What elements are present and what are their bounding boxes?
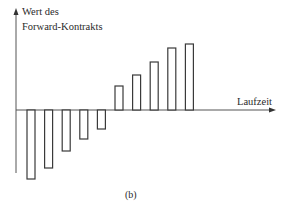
figure-caption: (b)	[125, 189, 137, 200]
bar-8	[150, 62, 158, 110]
bar-7	[133, 75, 141, 110]
y-axis-arrow-icon	[14, 8, 19, 15]
bars	[27, 44, 193, 179]
x-axis-arrow-icon	[269, 108, 276, 113]
bar-2	[45, 110, 53, 168]
bar-5	[97, 110, 105, 129]
bar-3	[62, 110, 70, 151]
bar-1	[27, 110, 35, 179]
y-axis-label-line-1: Wert des	[22, 6, 59, 17]
y-axis-label-line-2: Forward-Kontrakts	[22, 21, 102, 32]
bar-4	[80, 110, 88, 139]
bar-10	[185, 44, 193, 110]
bar-6	[115, 86, 123, 110]
bar-9	[168, 48, 176, 110]
x-axis-label: Laufzeit	[237, 96, 272, 107]
